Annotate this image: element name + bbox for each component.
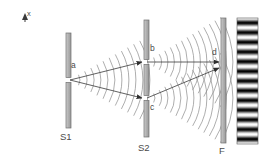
axis-label-x: x <box>27 10 31 18</box>
screen-f <box>221 18 226 143</box>
double-slit-diagram: x a b c d S1 S2 F <box>0 0 267 165</box>
barrier-s2 <box>144 20 149 137</box>
point-label-d: d <box>212 48 217 57</box>
point-label-c: c <box>150 103 154 112</box>
barrier-s1 <box>66 33 71 128</box>
point-label-b: b <box>150 44 155 53</box>
barrier-label-s1: S1 <box>60 132 72 142</box>
screen-label-f: F <box>219 146 225 156</box>
diagram-canvas <box>0 0 267 165</box>
wavefronts-from-slit-a <box>79 41 150 119</box>
point-label-a: a <box>71 61 76 70</box>
barrier-label-s2: S2 <box>138 143 150 153</box>
interference-fringe-pattern <box>237 18 258 144</box>
